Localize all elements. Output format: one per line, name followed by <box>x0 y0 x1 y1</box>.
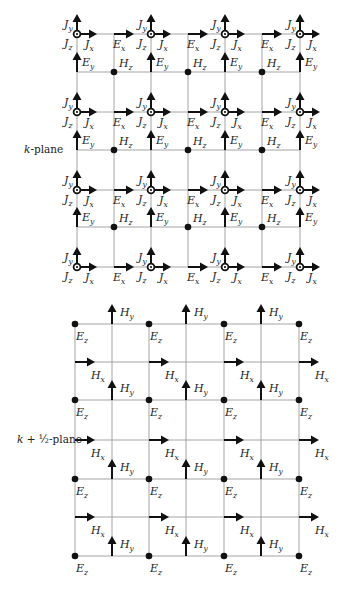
h-x-arrow <box>299 436 319 445</box>
arrow-head <box>161 358 169 367</box>
j-y-label: Jy <box>210 18 221 33</box>
h-y-arrow <box>182 459 191 479</box>
arrow-head <box>200 30 208 39</box>
h-x-label-base: H <box>90 369 101 382</box>
e-z-point <box>296 397 303 404</box>
h-y-label: Hy <box>193 306 209 321</box>
e-z-label-base: E <box>75 406 84 419</box>
h-x-label: Hx <box>314 447 330 462</box>
e-z-label-base: E <box>75 330 84 343</box>
current-node: JyJzJx <box>210 170 245 209</box>
j-z-label-subscript: z <box>290 121 295 130</box>
j-x-label-subscript: x <box>163 200 168 209</box>
e-z-label: Ez <box>224 330 237 345</box>
arrow-head <box>87 436 95 445</box>
e-y-arrow <box>296 207 305 227</box>
e-z-label: Ez <box>75 330 88 345</box>
j-z-label: Jz <box>62 193 72 208</box>
h-z-label: Hz <box>118 135 133 150</box>
arrow-head <box>221 247 230 255</box>
h-z-label: Hz <box>266 212 281 227</box>
arrow-head <box>126 108 134 117</box>
current-out-of-plane-icon <box>297 187 304 194</box>
j-x-label-subscript: x <box>312 44 317 53</box>
h-x-label-subscript: x <box>175 375 180 384</box>
j-z-label: Jz <box>136 193 146 208</box>
h-x-label-subscript: x <box>325 453 330 462</box>
j-x-label: Jx <box>157 194 168 209</box>
e-y-label-base: E <box>304 56 313 69</box>
h-x-label-subscript: x <box>250 530 255 539</box>
h-y-arrow <box>182 304 191 324</box>
h-z-label-base: H <box>118 135 129 148</box>
h-x-label-base: H <box>164 447 175 460</box>
e-z-label-subscript: z <box>232 336 237 345</box>
j-x-label: Jx <box>306 271 317 286</box>
e-z-label-base: E <box>299 330 308 343</box>
h-y-label: Hy <box>193 461 209 476</box>
e-z-label-base: E <box>299 406 308 419</box>
j-y-label-subscript: y <box>67 102 73 111</box>
arrow-head <box>200 263 208 272</box>
j-y-label-subscript: y <box>141 257 147 266</box>
current-out-of-plane-icon <box>74 31 81 38</box>
e-z-point <box>296 321 303 328</box>
h-z-label-base: H <box>266 57 277 70</box>
h-y-label-subscript: y <box>203 544 209 553</box>
arrow-head <box>161 513 169 522</box>
arrow-head <box>147 14 156 22</box>
current-out-of-plane-icon <box>74 187 81 194</box>
current-out-of-plane-icon <box>297 264 304 271</box>
current-node: JyJzJx <box>62 14 97 53</box>
h-y-label-subscript: y <box>129 544 135 553</box>
h-x-arrow <box>224 513 244 522</box>
arrow-head <box>237 186 245 195</box>
arrow-head <box>89 30 97 39</box>
j-x-label-subscript: x <box>237 122 242 131</box>
h-y-label-subscript: y <box>203 312 209 321</box>
e-z-point <box>221 476 228 483</box>
arrow-head <box>236 358 244 367</box>
e-z-label-subscript: z <box>307 412 312 421</box>
j-z-label-subscript: z <box>67 276 72 285</box>
current-out-of-plane-icon <box>222 31 229 38</box>
e-z-label-subscript: z <box>307 568 312 577</box>
e-z-label: Ez <box>224 485 237 500</box>
arrow-head <box>237 263 245 272</box>
h-y-label: Hy <box>119 382 135 397</box>
j-x-label: Jx <box>83 38 94 53</box>
e-z-label: Ez <box>75 406 88 421</box>
j-y-label: Jy <box>62 96 73 111</box>
h-z-point <box>259 69 266 76</box>
h-z-label-base: H <box>118 212 129 225</box>
h-x-label-base: H <box>314 369 325 382</box>
j-x-label: Jx <box>83 271 94 286</box>
e-y-label-subscript: y <box>89 62 95 71</box>
e-y-label-base: E <box>304 211 313 224</box>
h-z-label-subscript: z <box>276 63 281 72</box>
j-y-label: Jy <box>136 251 147 266</box>
e-z-label-base: E <box>149 562 158 575</box>
j-z-label: Jz <box>62 115 72 130</box>
j-x-label: Jx <box>157 271 168 286</box>
j-x-label: Jx <box>306 38 317 53</box>
h-z-label-base: H <box>192 135 203 148</box>
e-z-label-subscript: z <box>157 568 162 577</box>
arrow-head <box>73 92 82 100</box>
arrow-head <box>221 14 230 22</box>
j-y-label-subscript: y <box>290 102 296 111</box>
j-y-label-subscript: y <box>215 180 221 189</box>
h-y-arrow <box>257 536 266 556</box>
arrow-head <box>221 52 230 60</box>
e-z-label-subscript: z <box>83 412 88 421</box>
arrow-head <box>147 92 156 100</box>
e-x-label-base: E <box>260 38 269 51</box>
arrow-head <box>87 513 95 522</box>
current-out-of-plane-icon <box>297 109 304 116</box>
e-y-label-base: E <box>155 134 164 147</box>
e-x-label-base: E <box>112 271 121 284</box>
h-x-label-subscript: x <box>101 530 106 539</box>
e-z-label: Ez <box>299 406 312 421</box>
e-x-label: Ex <box>112 38 126 53</box>
h-y-label-base: H <box>119 538 130 551</box>
